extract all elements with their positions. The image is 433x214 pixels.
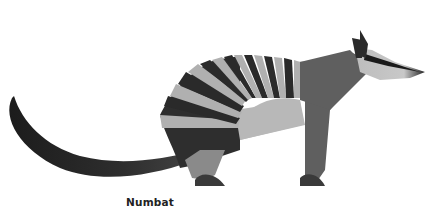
belly-arc bbox=[240, 98, 302, 140]
rear-foot bbox=[195, 175, 225, 186]
figure: Numbat bbox=[0, 0, 433, 214]
numbat-illustration bbox=[0, 0, 433, 190]
front-foot bbox=[300, 174, 325, 186]
figure-caption: Numbat bbox=[0, 196, 300, 208]
